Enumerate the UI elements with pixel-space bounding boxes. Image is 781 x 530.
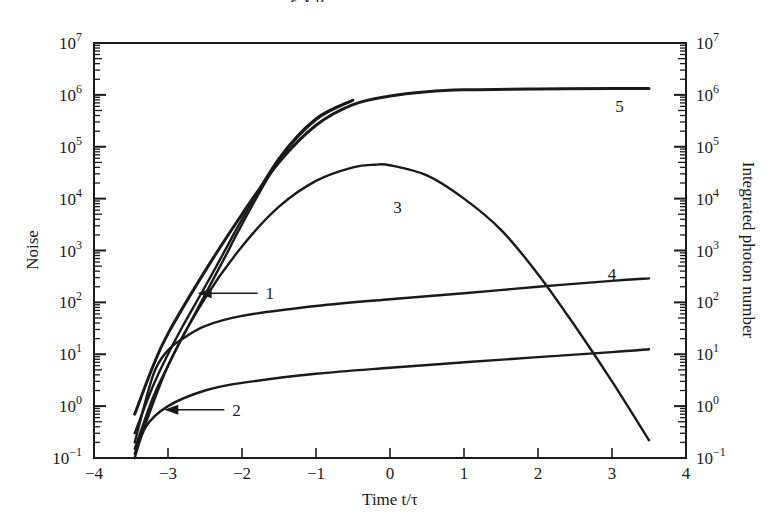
y-tick-label-left: 104 [59,186,82,209]
x-tick-label: −1 [307,464,325,483]
y-axis-title-right: Integrated photon number [739,162,758,339]
y-tick-label-left: 105 [59,134,82,157]
y-tick-label-right: 103 [696,238,719,261]
x-axis-ticks: −4−3−2−101234 [85,448,691,483]
y-tick-label-right: 102 [696,289,719,312]
y-tick-label-right: 107 [696,30,719,53]
curves [135,89,649,458]
x-tick-label: 2 [534,464,543,483]
curve-4 [135,278,649,442]
curve-label-3: 3 [393,198,402,217]
y-tick-label-left: 10−1 [52,445,82,468]
y-tick-label-left: 106 [59,82,82,105]
y-tick-label-right: 101 [696,341,719,364]
curve-label-4: 4 [608,265,617,284]
curve-1b [135,100,353,448]
y-tick-label-left: 101 [59,341,82,364]
y-axis-title-left: Noise [23,230,42,270]
curve-label-5: 5 [615,97,624,116]
y-tick-label-right: 100 [696,393,719,416]
x-tick-label: 1 [460,464,469,483]
x-tick-label: −3 [159,464,177,483]
right-axis-ticks: 10710610510410310210110010−1 [674,30,726,468]
x-axis-title: Time t/τ [362,490,418,509]
chart: 10710610510410310210110010−1 10710610510… [0,0,781,530]
curve-label-2: 2 [232,401,241,420]
y-tick-label-right: 104 [696,186,719,209]
curve-5 [135,89,649,415]
x-tick-label: −4 [85,464,104,483]
x-tick-label: −2 [233,464,251,483]
y-tick-label-left: 107 [59,30,82,53]
plot-frame [94,43,686,458]
x-tick-label: 0 [386,464,395,483]
x-tick-label: 3 [608,464,617,483]
y-tick-label-right: 10−1 [696,445,726,468]
y-tick-label-right: 105 [696,134,719,157]
y-tick-label-right: 106 [696,82,719,105]
y-tick-label-left: 102 [59,289,82,312]
curve-2 [135,349,649,458]
x-tick-label: 4 [682,464,691,483]
curve-label-1: 1 [266,284,275,303]
y-tick-label-left: 100 [59,393,82,416]
y-tick-label-left: 103 [59,238,82,261]
left-axis-ticks: 10710610510410310210110010−1 [52,30,106,468]
